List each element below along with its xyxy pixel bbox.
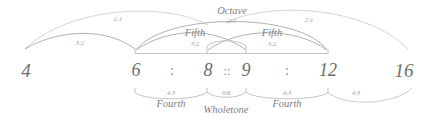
arc-fourth-outer-right-4-3 [328, 88, 412, 102]
arc-octave-center-2-1 [136, 22, 327, 51]
arc-octave-left-2-1 [25, 11, 208, 49]
arc-fifth-left-3-2 [136, 33, 246, 50]
proportion-diagram-graphics [0, 0, 430, 119]
arc-fourth-left-4-3 [135, 92, 207, 99]
arc-wholetone-top-9-8 [207, 41, 246, 46]
arc-wholetone-bottom-9-8 [207, 92, 246, 97]
arc-fifth-right-3-2 [208, 33, 327, 50]
arc-fourth-right-4-3 [246, 92, 328, 99]
diagram-canvas: 4 6 : 8 :: 9 : 12 16 Octave 2:1 2:1 2:1 … [0, 0, 430, 119]
